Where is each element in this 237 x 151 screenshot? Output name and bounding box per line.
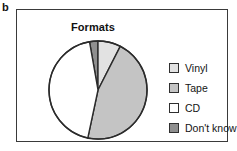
legend-label-tape: Tape — [185, 83, 208, 94]
legend-item-vinyl[interactable]: Vinyl — [169, 60, 237, 76]
legend-swatch-cd — [169, 103, 179, 113]
legend-label-vinyl: Vinyl — [185, 63, 208, 74]
chart-title: Formats — [17, 21, 169, 33]
pie-chart — [48, 40, 148, 140]
chart-legend: Vinyl Tape CD Don't know — [169, 60, 237, 140]
pie-slice-cd[interactable] — [49, 42, 98, 138]
legend-item-cd[interactable]: CD — [169, 100, 237, 116]
legend-label-dont-know: Don't know — [185, 123, 237, 134]
figure-frame: Formats Vinyl Tape CD Don't know — [16, 9, 228, 142]
legend-swatch-dont-know — [169, 123, 179, 133]
legend-label-cd: CD — [185, 103, 200, 114]
legend-swatch-tape — [169, 83, 179, 93]
panel-label: b — [2, 1, 9, 13]
legend-swatch-vinyl — [169, 63, 179, 73]
pie-chart-svg — [48, 40, 148, 140]
legend-item-dont-know[interactable]: Don't know — [169, 120, 237, 136]
legend-item-tape[interactable]: Tape — [169, 80, 237, 96]
